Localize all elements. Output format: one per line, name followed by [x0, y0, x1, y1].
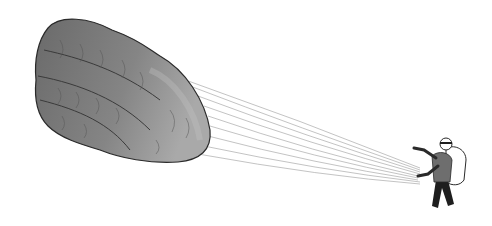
arm-raised — [414, 148, 436, 158]
person — [414, 138, 466, 208]
suspension-lines — [180, 78, 420, 184]
illustration — [0, 0, 492, 226]
canopy — [36, 19, 211, 162]
